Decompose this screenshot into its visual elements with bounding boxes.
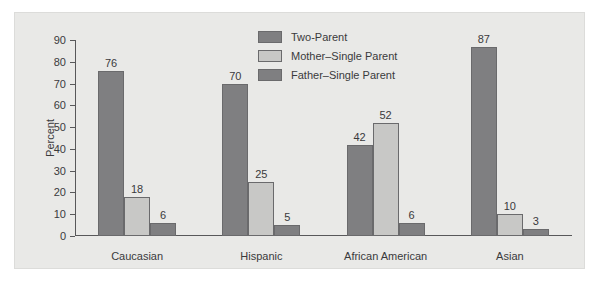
- bar-value-label: 6: [409, 209, 415, 221]
- y-tick-label: 50: [54, 121, 66, 133]
- y-tick-mark: [70, 84, 75, 85]
- bar-value-label: 42: [354, 131, 366, 143]
- y-tick-label: 80: [54, 56, 66, 68]
- bar-value-label: 52: [380, 109, 392, 121]
- bar[interactable]: 52: [373, 123, 399, 236]
- bar-value-label: 25: [255, 168, 267, 180]
- y-tick-mark: [70, 105, 75, 106]
- y-tick-label: 70: [54, 78, 66, 90]
- bar[interactable]: 10: [497, 214, 523, 236]
- legend-swatch: [258, 50, 282, 62]
- bar-value-label: 10: [504, 200, 516, 212]
- bar[interactable]: 6: [150, 223, 176, 236]
- bar-value-label: 76: [105, 57, 117, 69]
- legend-item[interactable]: Mother–Single Parent: [258, 46, 397, 65]
- bar[interactable]: 5: [274, 225, 300, 236]
- y-tick-mark: [70, 192, 75, 193]
- bar[interactable]: 6: [399, 223, 425, 236]
- y-tick-mark: [70, 236, 75, 237]
- legend-label: Two-Parent: [291, 31, 347, 43]
- bar-group: 87103Asian: [471, 40, 549, 236]
- bar[interactable]: 70: [222, 84, 248, 236]
- y-tick-label: 20: [54, 186, 66, 198]
- y-tick-mark: [70, 149, 75, 150]
- x-axis-category-label: Hispanic: [240, 250, 282, 262]
- bar-value-label: 5: [284, 211, 290, 223]
- y-tick-mark: [70, 214, 75, 215]
- x-axis-category-label: African American: [344, 250, 427, 262]
- bar-group: 76186Caucasian: [98, 40, 176, 236]
- chart-figure: Percent 0102030405060708090 76186Caucasi…: [14, 12, 585, 269]
- y-axis-line: [75, 40, 76, 236]
- chart-legend: Two-ParentMother–Single ParentFather–Sin…: [258, 27, 397, 84]
- bar-value-label: 18: [131, 183, 143, 195]
- bar-value-label: 6: [160, 209, 166, 221]
- bar[interactable]: 18: [124, 197, 150, 236]
- legend-swatch: [258, 31, 282, 43]
- y-tick-mark: [70, 62, 75, 63]
- y-tick-label: 90: [54, 34, 66, 46]
- legend-swatch: [258, 69, 282, 81]
- bar-value-label: 87: [478, 33, 490, 45]
- y-tick-mark: [70, 171, 75, 172]
- y-tick-label: 40: [54, 143, 66, 155]
- y-tick-label: 60: [54, 99, 66, 111]
- y-tick-label: 0: [60, 230, 66, 242]
- bar-value-label: 70: [229, 70, 241, 82]
- y-tick-label: 30: [54, 165, 66, 177]
- legend-item[interactable]: Father–Single Parent: [258, 65, 397, 84]
- x-axis-category-label: Caucasian: [111, 250, 163, 262]
- bar[interactable]: 76: [98, 71, 124, 237]
- legend-label: Father–Single Parent: [291, 69, 395, 81]
- y-tick-label: 10: [54, 208, 66, 220]
- y-tick-mark: [70, 40, 75, 41]
- legend-label: Mother–Single Parent: [291, 50, 397, 62]
- bar[interactable]: 3: [523, 229, 549, 236]
- x-axis-category-label: Asian: [496, 250, 524, 262]
- bar[interactable]: 42: [347, 145, 373, 236]
- bar[interactable]: 25: [248, 182, 274, 236]
- bar-value-label: 3: [533, 215, 539, 227]
- bar[interactable]: 87: [471, 47, 497, 236]
- y-tick-mark: [70, 127, 75, 128]
- legend-item[interactable]: Two-Parent: [258, 27, 397, 46]
